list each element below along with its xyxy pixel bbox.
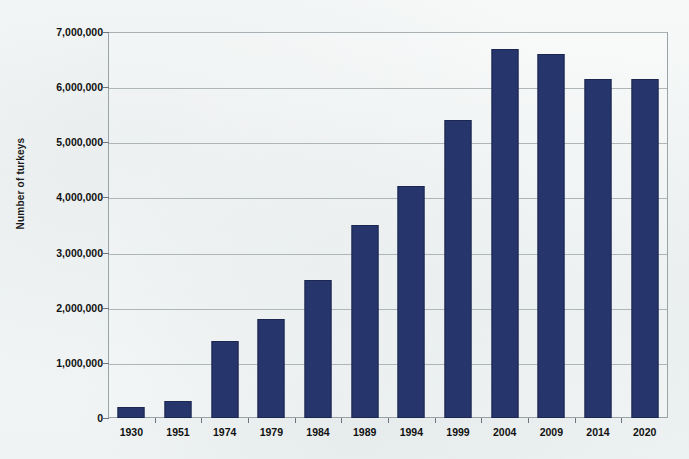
x-axis-tick-mark [201, 418, 202, 423]
bar-2009[interactable] [538, 54, 565, 418]
bar-slot [435, 32, 482, 418]
x-axis-tick-label: 1984 [306, 426, 329, 438]
x-axis-tick-label: 1989 [353, 426, 376, 438]
y-axis-tick-mark [103, 87, 109, 88]
x-axis-tick-label: 2014 [586, 426, 609, 438]
x-axis-tick-mark [295, 418, 296, 423]
bar-1984[interactable] [304, 280, 331, 418]
x-axis-tick-labels: 1930195119741979198419891994199920042009… [108, 426, 668, 448]
chart-title-cropped [0, 0, 689, 3]
bar-slot [108, 32, 155, 418]
x-axis-tick-label: 1930 [120, 426, 143, 438]
bar-slot [295, 32, 342, 418]
x-axis-tick-mark [435, 418, 436, 423]
y-axis-tick-label: 3,000,000 [0, 247, 103, 259]
x-axis-tick-mark [528, 418, 529, 423]
bar-slot [248, 32, 295, 418]
x-axis-tick-mark [155, 418, 156, 423]
x-axis-tick-mark [575, 418, 576, 423]
y-axis-tick-label: 5,000,000 [0, 136, 103, 148]
x-axis-tick-label: 2004 [493, 426, 516, 438]
y-axis-tick-mark [103, 418, 109, 419]
x-axis-tick-label: 2020 [633, 426, 656, 438]
bars-layer [108, 32, 668, 418]
x-axis-tick-label: 1994 [400, 426, 423, 438]
bar-slot [388, 32, 435, 418]
x-axis-tick-mark [621, 418, 622, 423]
bar-1974[interactable] [211, 341, 238, 418]
y-axis-tick-label: 0 [0, 412, 103, 424]
y-axis-tick-label: 7,000,000 [0, 26, 103, 38]
bar-slot [621, 32, 668, 418]
x-axis-tick-mark [341, 418, 342, 423]
y-axis-tick-mark [103, 197, 109, 198]
y-axis-tick-mark [103, 308, 109, 309]
y-axis-tick-label: 2,000,000 [0, 302, 103, 314]
bar-1999[interactable] [444, 120, 471, 418]
bar-1930[interactable] [118, 407, 145, 418]
x-axis-tick-label: 1951 [166, 426, 189, 438]
bar-1989[interactable] [351, 225, 378, 418]
y-axis-tick-mark [103, 32, 109, 33]
bar-2004[interactable] [491, 49, 518, 418]
bar-slot [201, 32, 248, 418]
y-axis-tick-mark [103, 253, 109, 254]
bar-2020[interactable] [631, 79, 658, 418]
bar-2014[interactable] [584, 79, 611, 418]
bar-slot [341, 32, 388, 418]
x-axis-tick-mark [248, 418, 249, 423]
y-axis-tick-label: 4,000,000 [0, 191, 103, 203]
bar-slot [528, 32, 575, 418]
x-axis-tick-mark [481, 418, 482, 423]
bar-slot [575, 32, 622, 418]
turkey-population-bar-chart: Number of turkeys 7,000,0006,000,0005,00… [0, 0, 689, 459]
bar-slot [481, 32, 528, 418]
bar-1994[interactable] [398, 186, 425, 418]
x-axis-tick-label: 2009 [540, 426, 563, 438]
x-axis-tick-mark [388, 418, 389, 423]
bar-1951[interactable] [164, 401, 191, 418]
y-axis-tick-label: 6,000,000 [0, 81, 103, 93]
x-axis-tick-label: 1999 [446, 426, 469, 438]
bar-slot [155, 32, 202, 418]
y-axis-tick-label: 1,000,000 [0, 357, 103, 369]
x-axis-tick-label: 1979 [260, 426, 283, 438]
bar-1979[interactable] [258, 319, 285, 418]
y-axis-tick-mark [103, 363, 109, 364]
y-axis-tick-labels: 7,000,0006,000,0005,000,0004,000,0003,00… [0, 0, 103, 459]
y-axis-tick-mark [103, 142, 109, 143]
x-axis-tick-label: 1974 [213, 426, 236, 438]
